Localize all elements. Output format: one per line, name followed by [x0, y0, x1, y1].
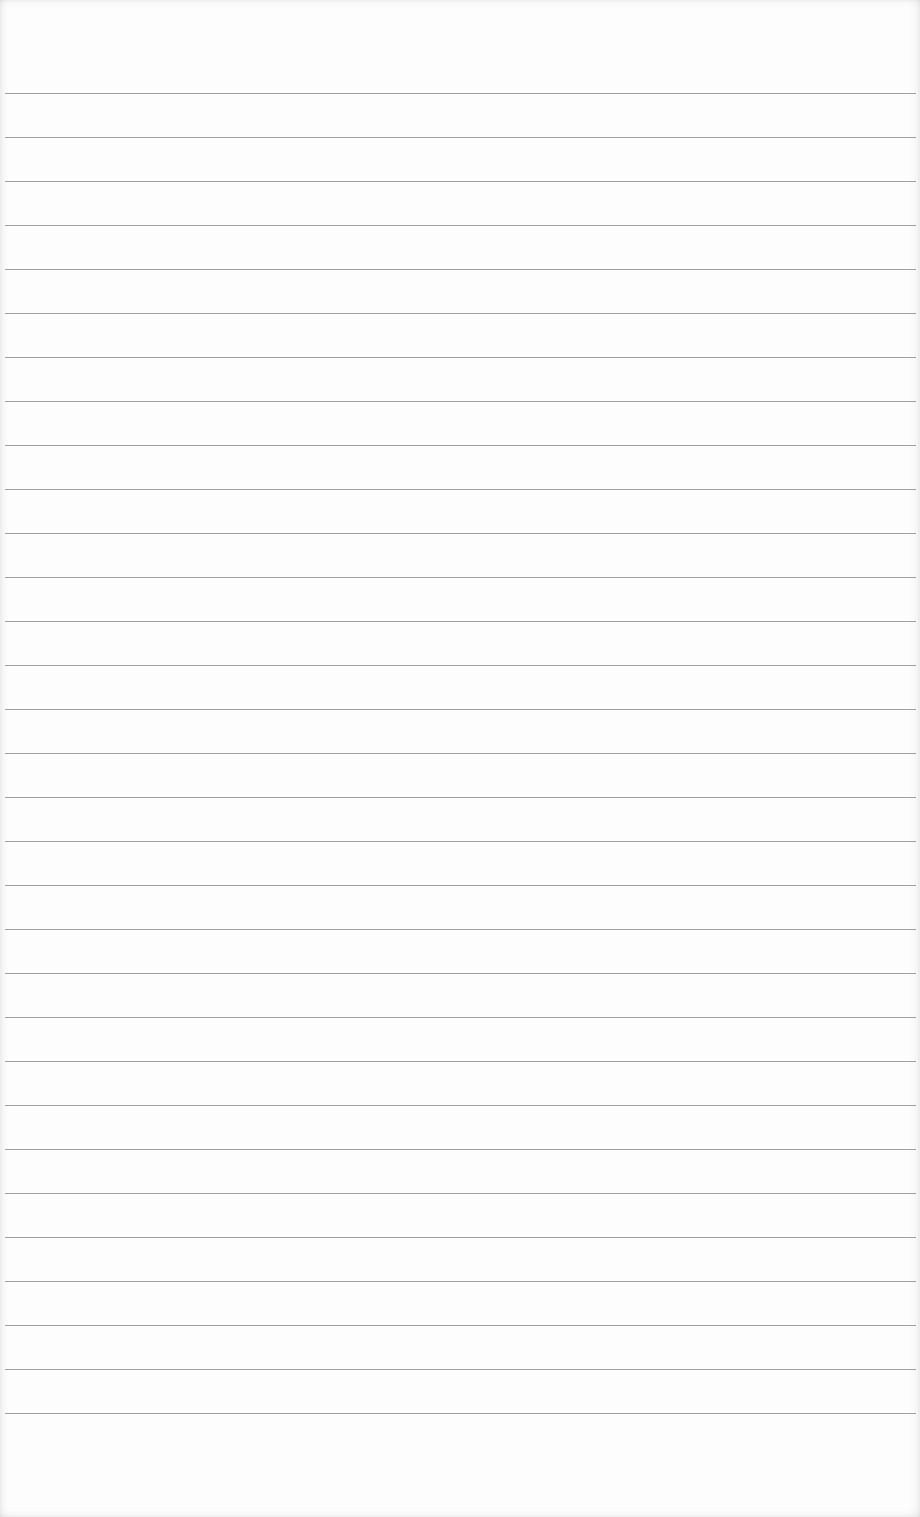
- ruled-line: [5, 533, 916, 534]
- ruled-line: [5, 93, 916, 94]
- ruled-line: [5, 621, 916, 622]
- ruled-line: [5, 665, 916, 666]
- ruled-line: [5, 1193, 916, 1194]
- ruled-line: [5, 1149, 916, 1150]
- ruled-line: [5, 753, 916, 754]
- ruled-line: [5, 885, 916, 886]
- ruled-line: [5, 1237, 916, 1238]
- lined-paper-sheet: [0, 0, 920, 1517]
- ruled-line: [5, 401, 916, 402]
- ruled-line: [5, 1369, 916, 1370]
- ruled-line: [5, 137, 916, 138]
- ruled-line: [5, 797, 916, 798]
- ruled-line: [5, 313, 916, 314]
- ruled-line: [5, 269, 916, 270]
- ruled-line: [5, 973, 916, 974]
- ruled-line: [5, 489, 916, 490]
- ruled-line: [5, 445, 916, 446]
- ruled-line: [5, 1281, 916, 1282]
- ruled-line: [5, 1105, 916, 1106]
- ruled-line: [5, 357, 916, 358]
- ruled-line: [5, 1413, 916, 1414]
- ruled-line: [5, 1017, 916, 1018]
- ruled-line: [5, 225, 916, 226]
- ruled-line: [5, 1325, 916, 1326]
- ruled-line: [5, 1061, 916, 1062]
- ruled-line: [5, 181, 916, 182]
- ruled-line: [5, 577, 916, 578]
- ruled-line: [5, 929, 916, 930]
- ruled-line: [5, 709, 916, 710]
- ruled-line: [5, 841, 916, 842]
